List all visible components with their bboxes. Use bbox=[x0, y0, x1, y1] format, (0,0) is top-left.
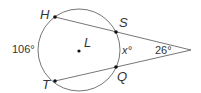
arc-HT-measure: 106° bbox=[12, 43, 35, 55]
label-Q: Q bbox=[117, 69, 127, 84]
vertex-angle-measure: 26° bbox=[155, 44, 172, 56]
point-H-dot bbox=[53, 15, 57, 19]
secant-circle-diagram: H S Q T L 106° x° 26° bbox=[0, 0, 201, 93]
point-S-dot bbox=[114, 30, 118, 34]
label-L: L bbox=[84, 35, 91, 50]
center-L-dot bbox=[77, 49, 80, 52]
arc-SQ-measure: x° bbox=[121, 44, 133, 56]
label-T: T bbox=[42, 77, 51, 92]
label-S: S bbox=[119, 15, 128, 30]
label-H: H bbox=[40, 7, 50, 22]
diagram-canvas: H S Q T L 106° x° 26° bbox=[0, 0, 201, 93]
point-T-dot bbox=[53, 79, 57, 83]
